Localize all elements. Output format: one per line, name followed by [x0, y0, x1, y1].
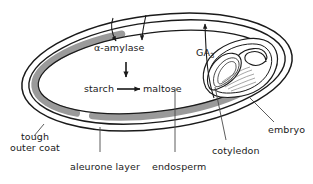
label-ga3: GA3 — [196, 47, 215, 62]
label-tough-outer-coat-line2: outer coat — [10, 142, 60, 153]
leader-embryo — [250, 98, 274, 122]
label-maltose: maltose — [143, 83, 182, 94]
label-aleurone-layer: aleurone layer — [70, 161, 140, 172]
label-embryo: embryo — [268, 124, 305, 135]
label-tough-outer-coat: tough outer coat — [2, 131, 68, 153]
label-cotyledon: cotyledon — [212, 145, 260, 156]
label-ga3-subscript: 3 — [210, 52, 215, 60]
seed-diagram: α-amylase starch maltose GA3 tough outer… — [0, 0, 313, 184]
label-starch: starch — [84, 83, 114, 94]
label-alpha-amylase: α-amylase — [94, 42, 145, 53]
label-tough-outer-coat-line1: tough — [21, 131, 49, 142]
label-endosperm: endosperm — [152, 161, 206, 172]
label-ga3-text: GA — [196, 47, 210, 58]
